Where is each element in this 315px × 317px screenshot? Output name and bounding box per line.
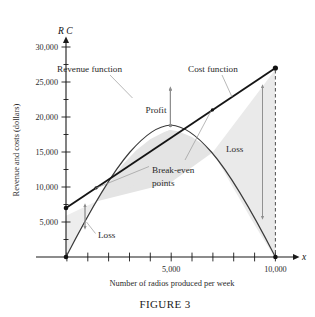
figure-caption: FIGURE 3	[139, 298, 190, 310]
y-tick-label-20000: 20,000	[35, 113, 58, 122]
cost-intercept-dot	[64, 206, 69, 211]
y-tick-label-5000: 5,000	[40, 218, 58, 227]
loss-left-label: Loss	[98, 230, 116, 240]
x-tick-label-10000: 10,000	[264, 265, 287, 274]
cost-label-leader	[222, 75, 232, 97]
break-even-chart: 5,000 10,000 15,000 20,000 25,000 30,000…	[0, 0, 315, 317]
x-axis-name: x	[301, 252, 307, 262]
x-tick-group: 5,000 10,000	[67, 253, 287, 274]
profit-label: Profit	[146, 105, 167, 115]
revenue-origin-dot	[64, 255, 69, 260]
y-tick-label-15000: 15,000	[35, 148, 58, 157]
break-even-label-line2: points	[152, 178, 175, 188]
break-even-point-2	[211, 108, 214, 111]
loss-region-right	[213, 70, 275, 257]
loss-left-leader	[87, 222, 96, 234]
cost-function-label: Cost function	[188, 64, 238, 74]
x-axis-title: Number of radios produced per week	[110, 279, 236, 288]
cost-endpoint-dot	[273, 65, 278, 70]
y-axis-title: Revenue and costs (dollars)	[12, 103, 21, 196]
loss-right-label: Loss	[226, 144, 244, 154]
x-tick-label-5000: 5,000	[162, 265, 180, 274]
revenue-label-leader	[110, 75, 133, 98]
figure-container: 5,000 10,000 15,000 20,000 25,000 30,000…	[0, 0, 315, 317]
revenue-endpoint-dot	[273, 255, 278, 260]
y-axis-name: R C	[57, 26, 73, 36]
y-tick-label-30000: 30,000	[35, 43, 58, 52]
y-tick-label-25000: 25,000	[35, 78, 58, 87]
revenue-function-label: Revenue function	[57, 64, 122, 74]
break-even-label-line1: Break-even	[152, 165, 195, 175]
y-tick-label-10000: 10,000	[35, 183, 58, 192]
